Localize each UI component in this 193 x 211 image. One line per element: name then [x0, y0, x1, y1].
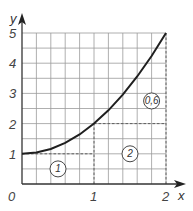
tick-labels: 01212345	[8, 26, 170, 204]
x-axis-label: x	[177, 188, 185, 203]
x-tick-label: 0	[8, 189, 16, 204]
x-tick-label: 2	[161, 189, 170, 204]
annotation-label: 0,6	[145, 95, 159, 106]
chart: x y 01212345 120,6	[0, 0, 193, 211]
y-axis-label: y	[9, 11, 18, 26]
x-tick-label: 1	[90, 189, 97, 204]
y-tick-label: 5	[9, 26, 17, 41]
annotations: 120,6	[50, 93, 160, 177]
y-tick-label: 2	[8, 117, 17, 132]
annotation-label: 2	[126, 148, 133, 159]
axes: x y	[9, 11, 186, 203]
y-tick-label: 1	[9, 147, 16, 162]
y-tick-label: 3	[9, 86, 17, 101]
annotation-label: 1	[55, 163, 61, 174]
y-tick-label: 4	[9, 56, 16, 71]
